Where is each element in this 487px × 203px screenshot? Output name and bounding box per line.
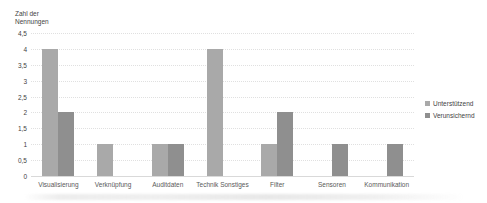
y-tick-label: 4,5 (18, 30, 27, 37)
legend-marker-icon (425, 113, 430, 118)
y-axis-title-line1: Zahl der (15, 10, 49, 18)
y-tick-label: 1,5 (18, 125, 27, 132)
category-column (250, 33, 305, 176)
y-tick-label: 0 (23, 173, 27, 180)
y-axis-tick-labels: 4,543,532,521,510,50 (0, 33, 28, 176)
bar-verunsichernd (277, 112, 293, 176)
bar-unterstützend (42, 49, 58, 176)
y-tick-label: 2 (23, 109, 27, 116)
y-axis-title-line2: Nennungen (15, 18, 49, 26)
bar-unterstützend (152, 144, 168, 176)
gridline (31, 176, 414, 177)
plot-area (31, 33, 414, 176)
category-column (86, 33, 141, 176)
category-column (31, 33, 86, 176)
bar-verunsichernd (58, 112, 74, 176)
page-bottom-shadow (24, 194, 464, 200)
category-label: Auditdaten (140, 181, 195, 188)
category-column (140, 33, 195, 176)
category-label: Verknüpfung (86, 181, 141, 188)
y-tick-label: 2,5 (18, 93, 27, 100)
category-label: Kommunikation (359, 181, 414, 188)
x-axis-category-labels: VisualisierungVerknüpfungAuditdatenTechn… (31, 181, 414, 188)
y-tick-label: 0,5 (18, 157, 27, 164)
y-tick-label: 3,5 (18, 61, 27, 68)
bar-unterstützend (261, 144, 277, 176)
bar-unterstützend (207, 49, 223, 176)
bar-verunsichernd (168, 144, 184, 176)
category-label: Filter (250, 181, 305, 188)
y-tick-label: 4 (23, 45, 27, 52)
category-column (359, 33, 414, 176)
legend-item: Verunsichernd (425, 112, 475, 119)
bar-series-container (31, 33, 414, 176)
legend-marker-icon (425, 101, 430, 106)
y-axis-title: Zahl der Nennungen (15, 10, 49, 25)
bar-verunsichernd (387, 144, 403, 176)
legend-item: Unterstützend (425, 100, 475, 107)
category-column (305, 33, 360, 176)
legend-label: Unterstützend (433, 100, 473, 107)
category-label: Sensoren (305, 181, 360, 188)
category-label: Visualisierung (31, 181, 86, 188)
category-column (195, 33, 250, 176)
bar-unterstützend (97, 144, 113, 176)
bar-chart-figure: Zahl der Nennungen 4,543,532,521,510,50 … (0, 0, 487, 203)
y-tick-label: 3 (23, 77, 27, 84)
bar-verunsichernd (332, 144, 348, 176)
chart-legend: UnterstützendVerunsichernd (425, 100, 475, 124)
category-label: Technik Sonstiges (195, 181, 250, 188)
y-tick-label: 1 (23, 141, 27, 148)
legend-label: Verunsichernd (433, 112, 475, 119)
